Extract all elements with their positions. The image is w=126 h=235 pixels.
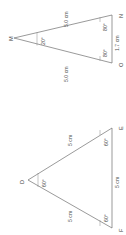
side-label-de: 5 cm: [68, 135, 73, 146]
angle-label-e: 60°: [104, 138, 109, 146]
side-label-mn: 5.0 cm: [64, 11, 69, 27]
vertex-label-n: N: [119, 14, 125, 18]
vertex-label-m: M: [9, 36, 15, 41]
vertex-label-e: E: [119, 126, 125, 130]
side-label-ef: 5 cm: [115, 177, 120, 188]
side-label-mo: 5.0 cm: [64, 66, 69, 82]
angle-label-m: 20°: [41, 37, 46, 45]
side-label-no: 1.7 cm: [115, 35, 120, 51]
angle-label-d: 60°: [42, 179, 47, 187]
side-label-df: 5 cm: [68, 211, 73, 222]
angle-label-n: 80°: [103, 23, 108, 31]
angle-label-o: 80°: [103, 49, 108, 57]
vertex-label-f: F: [119, 229, 125, 232]
triangles-vector-layer: [0, 0, 126, 235]
vertex-label-o: O: [119, 63, 125, 67]
figure-canvas: M N O 5.0 cm 5.0 cm 1.7 cm 20° 80° 80° D…: [0, 0, 126, 235]
angle-label-f: 60°: [104, 214, 109, 222]
vertex-label-d: D: [20, 180, 26, 184]
